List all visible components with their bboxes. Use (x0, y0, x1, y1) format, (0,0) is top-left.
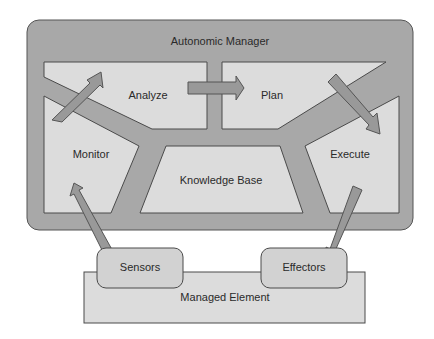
autonomic-manager-diagram: Autonomic Manager Analyze Plan Monitor E… (0, 0, 434, 339)
plan-label: Plan (261, 89, 283, 101)
knowledge-base-label: Knowledge Base (180, 174, 263, 186)
execute-label: Execute (330, 148, 370, 160)
monitor-label: Monitor (73, 148, 110, 160)
analyze-label: Analyze (128, 89, 167, 101)
autonomic-manager-title: Autonomic Manager (171, 35, 270, 47)
effectors-label: Effectors (282, 261, 326, 273)
managed-element-label: Managed Element (180, 291, 269, 303)
sensors-label: Sensors (120, 261, 161, 273)
